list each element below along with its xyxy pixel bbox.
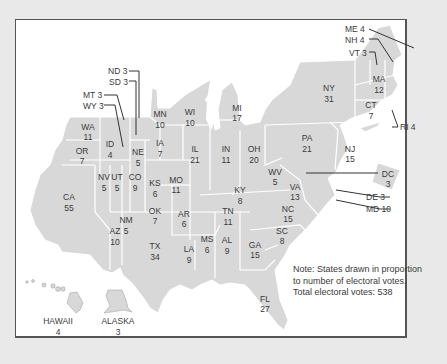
svg-text:DC: DC: [382, 169, 394, 179]
svg-text:8: 8: [238, 196, 243, 206]
svg-text:9: 9: [133, 183, 138, 193]
svg-text:11: 11: [84, 132, 93, 142]
callout-ME: ME 4: [345, 24, 365, 34]
svg-text:NV: NV: [98, 172, 110, 182]
svg-text:GA: GA: [249, 240, 262, 250]
svg-text:5: 5: [102, 183, 107, 193]
svg-text:5: 5: [124, 226, 129, 236]
svg-text:6: 6: [205, 245, 210, 255]
svg-text:12: 12: [374, 85, 384, 95]
callout-ND: ND 3: [108, 66, 128, 76]
svg-text:IA: IA: [156, 138, 164, 148]
callout-NH: NH 4: [345, 35, 365, 45]
svg-text:10: 10: [155, 120, 165, 130]
svg-text:10: 10: [110, 237, 120, 247]
svg-text:AZ: AZ: [110, 226, 121, 236]
svg-text:5: 5: [273, 177, 278, 187]
callout-RI: RI 4: [400, 122, 416, 132]
svg-text:ID: ID: [106, 139, 115, 149]
svg-text:11: 11: [172, 185, 181, 195]
svg-text:5: 5: [136, 158, 141, 168]
svg-text:CO: CO: [129, 172, 142, 182]
svg-text:NC: NC: [282, 204, 294, 214]
svg-text:3: 3: [386, 179, 391, 189]
callout-SD: SD 3: [109, 77, 128, 87]
svg-text:KY: KY: [234, 185, 246, 195]
svg-text:IN: IN: [222, 144, 231, 154]
svg-text:7: 7: [369, 111, 374, 121]
svg-text:CA: CA: [63, 192, 75, 202]
svg-text:PA: PA: [302, 133, 313, 143]
svg-text:AR: AR: [178, 209, 190, 219]
svg-text:KS: KS: [149, 178, 161, 188]
svg-text:MS: MS: [201, 234, 214, 244]
svg-text:9: 9: [225, 246, 230, 256]
note-line-1: Note: States drawn in proportion: [293, 264, 433, 276]
svg-text:OR: OR: [76, 146, 89, 156]
long-island: [360, 122, 380, 132]
callout-DE: DE 3: [366, 192, 385, 202]
svg-text:8: 8: [280, 236, 285, 246]
svg-text:6: 6: [153, 189, 158, 199]
hawaii-shape: [26, 280, 83, 313]
svg-text:20: 20: [249, 155, 259, 165]
electoral-cartogram: WA 11 OR 7 CA 55 ID 4 NV 5 UT 5 AZ 10 NM…: [0, 0, 447, 364]
svg-text:OH: OH: [248, 144, 261, 154]
note-line-2: to number of electoral votes.: [293, 276, 433, 288]
inset-votes-alaska: 3: [116, 327, 121, 337]
svg-text:AL: AL: [222, 235, 233, 245]
svg-text:MN: MN: [153, 109, 166, 119]
alaska-shape: [104, 290, 132, 313]
svg-text:10: 10: [185, 118, 195, 128]
svg-text:34: 34: [150, 252, 160, 262]
svg-text:LA: LA: [184, 244, 195, 254]
svg-text:4: 4: [108, 150, 113, 160]
svg-text:OK: OK: [149, 206, 162, 216]
svg-text:SC: SC: [276, 226, 288, 236]
svg-text:WV: WV: [268, 167, 282, 177]
svg-text:NY: NY: [323, 83, 335, 93]
svg-text:5: 5: [115, 183, 120, 193]
svg-text:11: 11: [224, 217, 233, 227]
svg-text:MA: MA: [373, 74, 386, 84]
callout-MT: MT 3: [83, 90, 102, 100]
svg-text:9: 9: [187, 255, 192, 265]
svg-text:21: 21: [302, 144, 312, 154]
svg-text:TX: TX: [150, 241, 161, 251]
note-line-3: Total electoral votes: 538: [293, 287, 433, 299]
svg-text:7: 7: [80, 156, 85, 166]
svg-text:15: 15: [283, 214, 293, 224]
svg-text:TN: TN: [222, 206, 233, 216]
svg-text:6: 6: [182, 219, 187, 229]
svg-text:21: 21: [190, 155, 200, 165]
map-note: Note: States drawn in proportion to numb…: [293, 264, 433, 299]
svg-text:55: 55: [64, 203, 74, 213]
svg-text:27: 27: [260, 304, 270, 314]
svg-text:15: 15: [250, 250, 260, 260]
svg-text:7: 7: [158, 149, 163, 159]
svg-text:NM: NM: [119, 215, 132, 225]
inset-labels: HAWAII 4 ALASKA 3: [43, 316, 135, 337]
svg-text:7: 7: [153, 216, 158, 226]
svg-text:UT: UT: [111, 172, 122, 182]
svg-text:WI: WI: [185, 107, 195, 117]
callout-VT: VT 3: [349, 48, 367, 58]
svg-text:15: 15: [345, 154, 355, 164]
svg-text:13: 13: [290, 192, 300, 202]
callout-WY: WY 3: [83, 101, 104, 111]
svg-text:NJ: NJ: [345, 144, 355, 154]
svg-text:FL: FL: [260, 294, 270, 304]
svg-text:17: 17: [232, 113, 242, 123]
inset-label-alaska: ALASKA: [101, 316, 134, 326]
svg-text:31: 31: [324, 94, 334, 104]
svg-text:CT: CT: [365, 100, 376, 110]
svg-text:MI: MI: [232, 103, 241, 113]
svg-text:VA: VA: [290, 182, 301, 192]
callout-MD: MD 10: [366, 204, 391, 214]
svg-text:NE: NE: [132, 147, 144, 157]
svg-text:MO: MO: [169, 175, 183, 185]
svg-text:IL: IL: [191, 144, 198, 154]
inset-votes-hawaii: 4: [56, 327, 61, 337]
inset-label-hawaii: HAWAII: [43, 316, 73, 326]
state-label-WA: WA: [81, 122, 95, 132]
